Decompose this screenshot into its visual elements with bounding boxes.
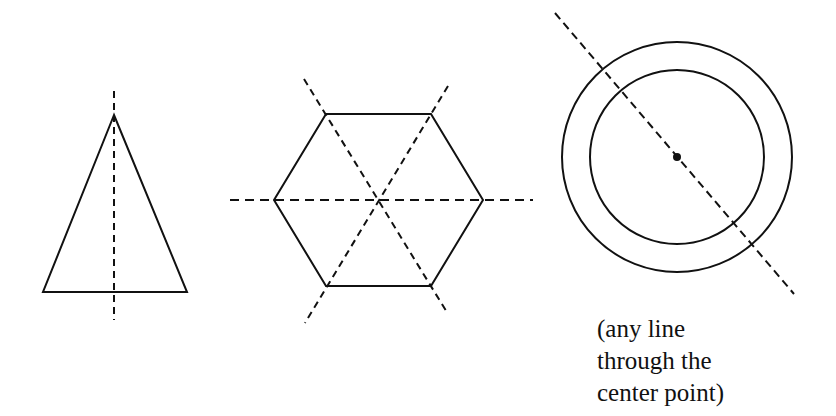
circle-caption: (any line through the center point) xyxy=(597,313,724,409)
center-point xyxy=(673,153,681,161)
caption-line-1: (any line xyxy=(597,313,724,345)
hexagon-axis-diag-2 xyxy=(305,86,448,323)
caption-line-3: center point) xyxy=(597,377,724,409)
caption-line-2: through the xyxy=(597,345,724,377)
